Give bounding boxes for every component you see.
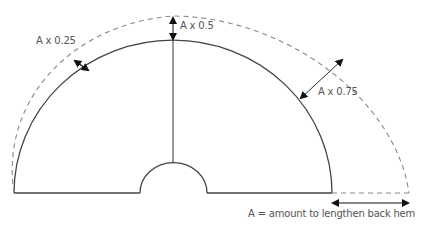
hem-diagram: A x 0.25 A x 0.5 A x 0.75 A = amount to …: [0, 0, 423, 230]
label-quarter: A x 0.25: [36, 35, 76, 46]
label-three-quarter: A x 0.75: [318, 86, 358, 97]
label-half: A x 0.5: [180, 20, 214, 31]
waist-arc: [140, 163, 207, 193]
legend-text: A = amount to lengthen back hem: [248, 208, 415, 219]
